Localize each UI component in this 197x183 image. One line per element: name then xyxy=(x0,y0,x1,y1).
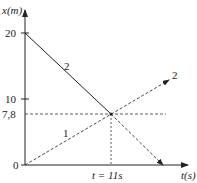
tick-label-20: 20 xyxy=(5,27,17,39)
tick-label-78: 7,8 xyxy=(2,108,16,120)
line-2-solid xyxy=(25,33,111,114)
intersection-point xyxy=(110,113,113,116)
line-1-end-label: 2 xyxy=(172,69,178,81)
line-1-label: 1 xyxy=(63,127,69,139)
tick-label-10: 10 xyxy=(5,93,17,105)
x-axis-label: t(s) xyxy=(181,169,196,182)
position-time-chart: x(m) 20 10 7,8 0 2 1 2 t = 11s t(s) xyxy=(0,0,197,183)
line-1-dashed xyxy=(25,80,169,165)
tick-label-0: 0 xyxy=(13,159,19,171)
line-2-dashed xyxy=(111,114,163,165)
line-2-label: 2 xyxy=(64,60,70,72)
t-mark-label: t = 11s xyxy=(92,169,122,181)
y-axis-label: x(m) xyxy=(1,4,22,17)
